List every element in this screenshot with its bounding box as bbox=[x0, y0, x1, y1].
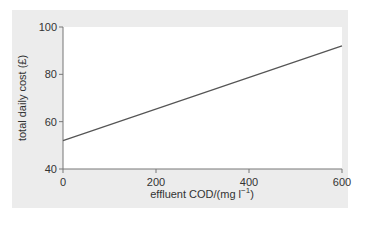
y-tick-label: 100 bbox=[39, 21, 57, 33]
y-tick-label: 60 bbox=[45, 116, 57, 128]
x-tick-label: 600 bbox=[333, 176, 351, 188]
x-axis-label-main: effluent COD/(mg l bbox=[150, 188, 241, 200]
y-tick-label: 80 bbox=[45, 68, 57, 80]
plot-area bbox=[63, 27, 342, 169]
x-ticks: 0200400600 bbox=[60, 169, 351, 188]
x-axis-label-end: ) bbox=[250, 188, 254, 200]
y-axis-label: total daily cost (£) bbox=[16, 55, 28, 141]
y-tick-label: 40 bbox=[45, 163, 57, 175]
y-ticks: 406080100 bbox=[39, 21, 63, 175]
x-tick-label: 200 bbox=[147, 176, 165, 188]
line-chart: 406080100 0200400600 total daily cost (£… bbox=[0, 0, 368, 225]
x-tick-label: 0 bbox=[60, 176, 66, 188]
x-axis-label: effluent COD/(mg l−1) bbox=[150, 186, 254, 200]
